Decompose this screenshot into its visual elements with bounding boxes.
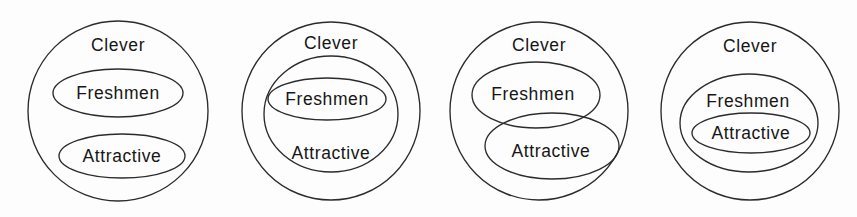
diagram-3-freshmen-label: Freshmen xyxy=(491,84,575,104)
diagram-4-clever-label: Clever xyxy=(723,36,777,56)
diagram-3-clever-label: Clever xyxy=(512,35,566,55)
diagram-2: Clever Freshmen Attractive xyxy=(242,22,420,200)
diagram-3: Clever Freshmen Attractive xyxy=(450,22,628,200)
diagram-1-freshmen-label: Freshmen xyxy=(76,83,160,103)
diagram-1: Clever Freshmen Attractive xyxy=(28,21,208,201)
diagram-4-attractive-label: Attractive xyxy=(712,123,791,143)
diagram-2-attractive-label: Attractive xyxy=(292,143,371,163)
diagram-1-clever-label: Clever xyxy=(91,35,145,55)
euler-diagram-figure: Clever Freshmen Attractive Clever Freshm… xyxy=(0,0,857,217)
diagram-3-attractive-label: Attractive xyxy=(512,141,591,161)
diagram-2-clever-label: Clever xyxy=(304,33,358,53)
diagram-1-attractive-label: Attractive xyxy=(83,146,162,166)
diagram-4: Clever Freshmen Attractive xyxy=(661,22,839,200)
diagram-4-freshmen-label: Freshmen xyxy=(706,91,790,111)
euler-diagram-canvas: Clever Freshmen Attractive Clever Freshm… xyxy=(0,0,857,217)
diagram-2-freshmen-label: Freshmen xyxy=(285,89,369,109)
